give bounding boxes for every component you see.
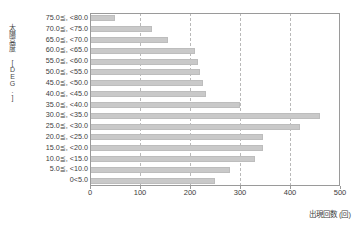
x-tick-label: 0 [88, 188, 92, 197]
bar [90, 145, 263, 151]
y-tick-label: 40.0≦, <45.0 [4, 89, 90, 100]
bar-row [90, 143, 340, 154]
bar [90, 124, 300, 130]
x-tick-label: 500 [334, 188, 347, 197]
bar-row [90, 56, 340, 67]
plot-area [90, 13, 340, 186]
bar [90, 80, 203, 86]
bar-chart: 太陽高度 [DEG.] 75.0≦, <80.070.0≦, <75.065.0… [0, 0, 357, 231]
plot-border-right [339, 13, 340, 186]
y-axis-line [90, 13, 91, 186]
y-tick-label: 60.0≦, <65.0 [4, 45, 90, 56]
bar [90, 91, 206, 97]
bar [90, 48, 195, 54]
y-tick-label: 70.0≦, <75.0 [4, 24, 90, 35]
bar [90, 178, 215, 184]
bar [90, 134, 263, 140]
y-tick-label: 10.0≦, <15.0 [4, 154, 90, 165]
x-axis-title: 出現回数 (回) [0, 208, 351, 219]
x-tick-label: 400 [284, 188, 297, 197]
bar [90, 59, 198, 65]
bar [90, 15, 115, 21]
bar-row [90, 35, 340, 46]
y-tick-label: 50.0≦, <55.0 [4, 67, 90, 78]
bar [90, 69, 200, 75]
y-tick-label: 75.0≦, <80.0 [4, 13, 90, 24]
y-tick-label: 30.0≦, <35.0 [4, 110, 90, 121]
bar-row [90, 110, 340, 121]
x-tick-label: 100 [134, 188, 147, 197]
bar-row [90, 89, 340, 100]
bar [90, 113, 320, 119]
bar [90, 26, 152, 32]
y-tick-label: 45.0≦, <50.0 [4, 78, 90, 89]
y-tick-label: 0<5.0 [4, 175, 90, 186]
bar [90, 102, 240, 108]
bar [90, 156, 255, 162]
y-tick-label: 35.0≦, <40.0 [4, 100, 90, 111]
bar-row [90, 121, 340, 132]
bar-row [90, 154, 340, 165]
x-tick-label: 200 [184, 188, 197, 197]
y-axis-tick-labels: 75.0≦, <80.070.0≦, <75.065.0≦, <70.060.0… [0, 13, 90, 186]
y-tick-label: 25.0≦, <30.0 [4, 121, 90, 132]
bar-row [90, 100, 340, 111]
bar-row [90, 78, 340, 89]
bar-row [90, 164, 340, 175]
bar [90, 167, 230, 173]
bar [90, 37, 168, 43]
y-tick-label: 5.0≦, <10.0 [4, 164, 90, 175]
y-tick-label: 55.0≦, <60.0 [4, 56, 90, 67]
x-axis-tick-labels: 0100200300400500 [90, 188, 340, 200]
bar-row [90, 24, 340, 35]
y-tick-label: 20.0≦, <25.0 [4, 132, 90, 143]
plot-border-top [90, 13, 340, 14]
bar-row [90, 45, 340, 56]
y-tick-label: 65.0≦, <70.0 [4, 35, 90, 46]
bar-row [90, 67, 340, 78]
bar-row [90, 13, 340, 24]
y-tick-label: 15.0≦, <20.0 [4, 143, 90, 154]
bar-row [90, 132, 340, 143]
x-tick-label: 300 [234, 188, 247, 197]
